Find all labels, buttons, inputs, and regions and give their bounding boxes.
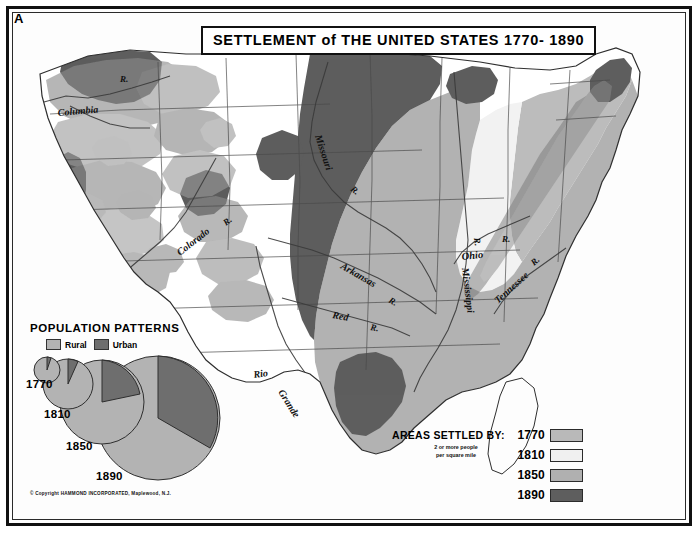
panel-letter: A bbox=[14, 11, 24, 26]
areas-year-1770: 1770 bbox=[515, 428, 545, 442]
map-page: A bbox=[0, 0, 700, 534]
areas-swatch-1890 bbox=[550, 489, 583, 502]
areas-swatch-1850 bbox=[550, 469, 583, 482]
pie-label-1850: 1850 bbox=[66, 440, 93, 452]
population-pie-charts: 1770 1810 1850 1890 bbox=[30, 352, 245, 482]
rural-swatch bbox=[46, 339, 61, 350]
pie-label-1890: 1890 bbox=[96, 470, 123, 482]
population-patterns-heading: POPULATION PATTERNS bbox=[30, 322, 245, 334]
rural-label: Rural bbox=[65, 340, 87, 350]
areas-year-1890: 1890 bbox=[515, 488, 545, 502]
map-title-box: SETTLEMENT of THE UNITED STATES 1770- 18… bbox=[201, 26, 596, 55]
legend-item-urban: Urban bbox=[94, 339, 138, 350]
areas-row-1850: 1850 bbox=[515, 468, 583, 482]
river-label-mississippi-r: R. bbox=[472, 236, 483, 246]
areas-row-1890: 1890 bbox=[515, 488, 583, 502]
areas-year-1810: 1810 bbox=[515, 448, 545, 462]
river-label-grande: Grande bbox=[276, 387, 302, 420]
areas-settled-legend: AREAS SETTLED BY: 2 or more people per s… bbox=[392, 428, 505, 441]
areas-settled-subtitle-line1: 2 or more people bbox=[410, 443, 502, 451]
river-label-rio: Rio bbox=[252, 367, 269, 380]
population-patterns-panel: POPULATION PATTERNS Rural Urban bbox=[30, 322, 245, 482]
areas-settled-subtitle-line2: per square mile bbox=[410, 451, 502, 459]
areas-settled-rows: 1770 1810 1850 1890 bbox=[515, 428, 583, 508]
areas-row-1810: 1810 bbox=[515, 448, 583, 462]
copyright-notice: © Copyright HAMMOND INCORPORATED, Maplew… bbox=[30, 491, 171, 496]
areas-year-1850: 1850 bbox=[515, 468, 545, 482]
areas-settled-heading: AREAS SETTLED BY: bbox=[392, 428, 505, 441]
urban-label: Urban bbox=[113, 340, 138, 350]
urban-swatch bbox=[94, 339, 109, 350]
page-title: SETTLEMENT of THE UNITED STATES 1770- 18… bbox=[213, 32, 584, 48]
river-label-columbia-r: R. bbox=[119, 74, 128, 84]
areas-row-1770: 1770 bbox=[515, 428, 583, 442]
river-label-ohio: Ohio bbox=[461, 249, 484, 262]
pie-label-1770: 1770 bbox=[26, 378, 53, 390]
population-patterns-legend: Rural Urban bbox=[30, 339, 245, 350]
river-label-ohio-r: R. bbox=[501, 234, 510, 244]
areas-swatch-1770 bbox=[550, 429, 583, 442]
areas-settled-subtitle: 2 or more people per square mile bbox=[410, 443, 502, 459]
areas-settled-header: AREAS SETTLED BY: bbox=[392, 428, 505, 441]
legend-item-rural: Rural bbox=[46, 339, 87, 350]
river-label-red-r: R. bbox=[369, 322, 380, 333]
pie-label-1810: 1810 bbox=[44, 408, 71, 420]
areas-swatch-1810 bbox=[550, 449, 583, 462]
